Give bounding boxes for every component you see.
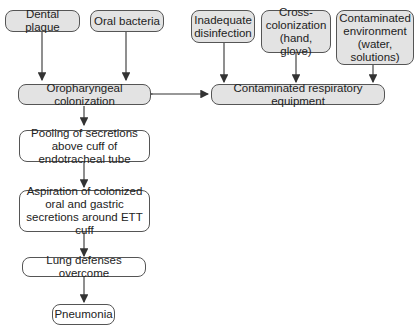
node-label: Cross-colonization (hand, glove) xyxy=(265,6,327,58)
node-label: Dental plaque xyxy=(9,8,76,34)
node-label: Contaminated environment (water, solutio… xyxy=(339,12,411,64)
node-label: Lung defenses overcome xyxy=(26,254,142,280)
node-dental-plaque: Dental plaque xyxy=(5,10,80,32)
node-label: Pooling of secretions above cuff of endo… xyxy=(23,127,146,166)
node-label: Pneumonia xyxy=(54,308,112,321)
node-lung-defenses: Lung defenses overcome xyxy=(22,257,146,277)
node-aspiration: Aspiration of colonized oral and gastric… xyxy=(19,190,150,232)
node-oral-bacteria: Oral bacteria xyxy=(90,10,164,32)
node-contaminated-equipment: Contaminated respiratory equipment xyxy=(211,84,385,105)
node-label: Contaminated respiratory equipment xyxy=(215,82,381,108)
node-label: Aspiration of colonized oral and gastric… xyxy=(23,185,146,237)
node-contaminated-environment: Contaminated environment (water, solutio… xyxy=(336,10,414,65)
node-cross-colonization: Cross-colonization (hand, glove) xyxy=(261,10,331,53)
node-pneumonia: Pneumonia xyxy=(52,304,115,325)
node-label: Inadequate disinfection xyxy=(194,14,252,40)
node-label: Oropharyngeal colonization xyxy=(22,82,147,108)
node-oropharyngeal-colonization: Oropharyngeal colonization xyxy=(18,84,151,105)
node-pooling: Pooling of secretions above cuff of endo… xyxy=(19,130,150,162)
node-label: Oral bacteria xyxy=(94,15,160,28)
node-inadequate-disinfection: Inadequate disinfection xyxy=(191,10,255,43)
